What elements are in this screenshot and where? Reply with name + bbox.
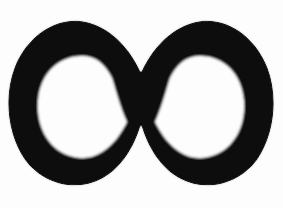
- infinity-symbol-artwork: [0, 0, 283, 208]
- image-canvas: [0, 0, 283, 208]
